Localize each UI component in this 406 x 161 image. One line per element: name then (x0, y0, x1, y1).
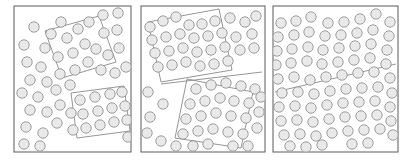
circle-marker (225, 13, 235, 23)
circle-marker (236, 81, 246, 91)
circle-marker (285, 141, 295, 151)
circle-marker (206, 45, 216, 55)
circle-marker (105, 89, 115, 99)
circle-marker (83, 57, 93, 67)
circle-marker (46, 29, 56, 39)
circle-marker (167, 60, 177, 70)
circle-marker (386, 116, 396, 126)
circle-marker (274, 102, 284, 112)
circle-marker (333, 57, 343, 67)
circle-marker (363, 138, 373, 148)
circle-marker (185, 99, 195, 109)
circle-marker (321, 72, 331, 82)
circle-marker (206, 80, 216, 90)
circle-marker (238, 129, 248, 139)
circle-marker (19, 40, 29, 50)
circle-marker (341, 84, 351, 94)
circle-marker (193, 126, 203, 136)
circle-marker (113, 8, 123, 18)
circle-marker (147, 35, 157, 45)
circle-marker (276, 18, 286, 28)
circle-marker (91, 44, 101, 54)
circle-marker (171, 141, 181, 151)
circle-marker (121, 62, 131, 72)
circle-marker (325, 86, 335, 96)
circle-marker (370, 96, 380, 106)
circle-marker (308, 117, 318, 127)
circle-marker (249, 43, 259, 53)
circle-marker (75, 95, 85, 105)
circle-marker (388, 130, 398, 140)
circle-marker (51, 85, 61, 95)
circle-marker (99, 28, 109, 38)
circle-marker (215, 93, 225, 103)
circle-marker (103, 50, 113, 60)
circle-marker (175, 29, 185, 39)
circle-marker (223, 127, 233, 137)
circle-marker (228, 141, 238, 151)
circle-marker (142, 128, 152, 138)
circle-marker (357, 83, 367, 93)
panel-2[interactable] (141, 6, 266, 152)
circle-marker (226, 111, 236, 121)
circle-marker (339, 17, 349, 27)
circle-marker (301, 142, 311, 152)
circle-marker (36, 62, 46, 72)
circle-marker (178, 43, 188, 53)
circle-marker (241, 113, 251, 123)
circle-marker (322, 100, 332, 110)
panel-3[interactable] (271, 6, 398, 152)
circle-marker (318, 45, 328, 55)
circle-marker (366, 39, 376, 49)
circle-marker (153, 62, 163, 72)
circle-marker (368, 25, 378, 35)
circle-marker (384, 31, 394, 41)
circle-marker (338, 98, 348, 108)
circle-marker (211, 108, 221, 118)
circle-marker (98, 10, 108, 20)
circle-marker (143, 87, 153, 97)
circle-marker (209, 59, 219, 69)
circle-marker (184, 20, 194, 30)
circle-marker (25, 75, 35, 85)
circle-marker (359, 125, 369, 135)
circle-marker (371, 9, 381, 19)
circle-marker (353, 68, 363, 78)
circle-marker (337, 70, 347, 80)
circle-marker (210, 16, 220, 26)
circle-marker (181, 114, 191, 124)
circle-marker (55, 100, 65, 110)
circle-marker (340, 112, 350, 122)
circle-marker (244, 98, 254, 108)
circle-marker (306, 12, 316, 22)
circle-marker (197, 19, 207, 29)
figure-canvas (0, 0, 406, 161)
circle-marker (203, 139, 213, 149)
circle-marker (114, 43, 124, 53)
circle-marker (150, 48, 160, 58)
circle-marker (78, 109, 88, 119)
circle-marker (254, 107, 264, 117)
circle-marker (107, 103, 117, 113)
circle-marker (317, 59, 327, 69)
circle-marker (208, 124, 218, 134)
circle-marker (304, 27, 314, 37)
circle-marker (276, 116, 286, 126)
circle-marker (81, 123, 91, 133)
circle-marker (334, 43, 344, 53)
circle-marker (62, 33, 72, 43)
panel-1[interactable] (14, 6, 133, 152)
circle-marker (350, 41, 360, 51)
circle-marker (68, 48, 78, 58)
circle-marker (243, 141, 253, 151)
circle-marker (273, 74, 283, 84)
circle-marker (291, 16, 301, 26)
circle-marker (327, 128, 337, 138)
circle-marker (17, 88, 27, 98)
circle-marker (171, 12, 181, 22)
circle-marker (38, 128, 48, 138)
circle-marker (53, 52, 63, 62)
circle-marker (120, 101, 130, 111)
circle-marker (55, 69, 65, 79)
circle-marker (293, 87, 303, 97)
